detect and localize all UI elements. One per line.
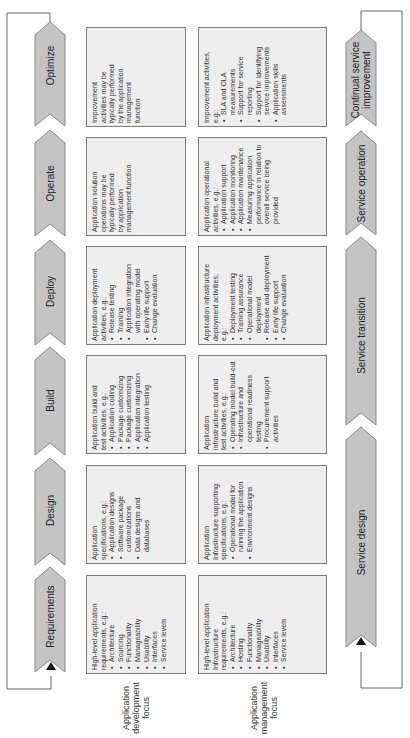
dev-box-operate: Application solution operations may be t…	[86, 137, 186, 236]
dev-box-requirements: High-level application requirements, e.g…	[86, 575, 186, 674]
lifecycle-label-csi: Continual service improvement	[350, 30, 372, 130]
dev-box-deploy: Application deployment activities, e.g.:…	[86, 246, 186, 345]
phase-label-design: Design	[45, 471, 56, 551]
dev-box-design-text: Application specifications, e.g.: Applic…	[87, 466, 186, 564]
lifecycle-label-service-operation: Service operation	[356, 134, 367, 234]
dev-box-optimize: Improvement activities may be typically …	[86, 27, 186, 127]
phase-label-optimize: Optimize	[45, 26, 56, 106]
dev-box-build-text: Application build and test activities, e…	[87, 356, 186, 454]
bullet-list: Application coding Package customizing P…	[108, 361, 151, 450]
phase-label-build: Build	[45, 361, 56, 441]
bullet-list: Architecture Sourcing Functionality Mana…	[108, 581, 168, 670]
mgmt-box-operate-text: Application operational activities, e.g.…	[199, 138, 327, 236]
mgmt-box-operate: Application operational activities, e.g.…	[198, 137, 327, 236]
mgmt-box-deploy: Application infrastructure deployment ac…	[198, 246, 327, 345]
bullet-list: Operational model for running the applic…	[229, 471, 255, 560]
mgmt-box-build-text: Application infrastructure build and tes…	[199, 356, 327, 454]
dev-box-build: Application build and test activities, e…	[86, 355, 186, 454]
mgmt-box-design-text: Application Infrastructure supporting sp…	[199, 466, 327, 564]
bullet-list: Release testing Training Application int…	[108, 252, 160, 341]
mgmt-box-build: Application infrastructure build and tes…	[198, 355, 327, 454]
column-label-development-focus: Application development focus	[121, 678, 151, 738]
dev-box-requirements-text: High-level application requirements, e.g…	[87, 576, 186, 674]
mgmt-box-optimize: Improvement activities, e.g.: SLA and OL…	[198, 27, 327, 127]
mgmt-box-optimize-text: Improvement activities, e.g.: SLA and OL…	[199, 28, 327, 127]
bullet-list: SLA and OLA measurements Support for ser…	[220, 33, 289, 123]
mgmt-box-deploy-text: Application infrastructure deployment ac…	[199, 247, 327, 345]
dev-box-operate-text: Application solution operations may be t…	[87, 138, 186, 236]
dev-box-optimize-text: Improvement activities may be typically …	[87, 28, 186, 127]
phase-label-deploy: Deploy	[45, 252, 56, 332]
bullet-list: Operating model build-out Infrastructure…	[229, 361, 281, 450]
bullet-list: Deployment testing Training assurance Op…	[229, 252, 289, 341]
bullet-list: Architecture Hosting Functionality Manag…	[229, 581, 289, 670]
lifecycle-label-service-transition: Service transition	[356, 276, 367, 396]
bullet-list: Application designs Software package cus…	[108, 471, 151, 560]
phase-label-operate: Operate	[45, 144, 56, 224]
bullet-list: Application support Application monitori…	[220, 143, 280, 232]
lifecycle-label-service-design: Service design	[356, 483, 367, 603]
mgmt-box-design: Application Infrastructure supporting sp…	[198, 465, 327, 564]
mgmt-box-requirements-text: High-level application Infrastructure re…	[199, 576, 327, 674]
dev-box-deploy-text: Application deployment activities, e.g.:…	[87, 247, 186, 345]
mgmt-box-requirements: High-level application Infrastructure re…	[198, 575, 327, 674]
lifecycle-label-csi-line2: improvement	[361, 30, 372, 130]
column-label-management-focus: Application management focus	[249, 678, 279, 738]
lifecycle-label-csi-line1: Continual service	[350, 30, 361, 130]
dev-box-design: Application specifications, e.g.: Applic…	[86, 465, 186, 564]
phase-label-requirements: Requirements	[45, 577, 56, 657]
